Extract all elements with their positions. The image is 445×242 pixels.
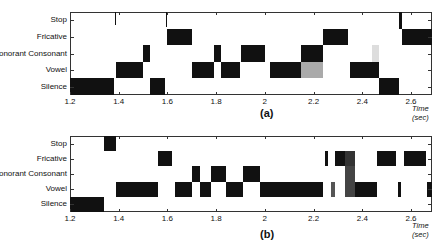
segment-sonorant-consonant [372, 45, 379, 62]
y-tick [428, 144, 432, 145]
y-tick [70, 144, 74, 145]
chart-caption: (b) [260, 228, 274, 240]
segment-fricative [323, 29, 347, 46]
x-tick [70, 209, 71, 212]
segment-sonorant-consonant [243, 166, 260, 181]
segment-sonorant-consonant [301, 45, 323, 62]
x-tick [362, 12, 363, 15]
x-tick [265, 136, 266, 139]
x-tick [167, 136, 168, 139]
x-tick-label: 2 [255, 214, 275, 223]
y-label-fricative: Fricative [37, 32, 67, 41]
segment-vowel [175, 182, 192, 197]
y-tick [428, 174, 432, 175]
x-tick [216, 92, 217, 95]
y-tick [428, 204, 432, 205]
x-tick-label: 2 [255, 97, 275, 106]
y-label-fricative: Fricative [37, 154, 67, 163]
y-label-vowel: Vowel [46, 184, 67, 193]
y-label-sonorant-consonant: Sonorant Consonant [0, 49, 67, 58]
x-tick [167, 92, 168, 95]
segment-vowel [350, 62, 379, 79]
x-tick [411, 92, 412, 95]
segment-sonorant-consonant [192, 166, 201, 181]
y-tick [70, 174, 74, 175]
x-tick-label: 1.8 [206, 214, 226, 223]
x-tick [314, 12, 315, 15]
y-tick [70, 189, 74, 190]
segment-silence [379, 78, 398, 95]
x-tick [70, 136, 71, 139]
segment-fricative [167, 29, 191, 46]
y-tick [428, 159, 432, 160]
x-tick [362, 92, 363, 95]
y-tick [428, 87, 432, 88]
x-tick-label: 1.2 [60, 214, 80, 223]
x-tick [119, 12, 120, 15]
y-tick [428, 20, 432, 21]
y-label-sonorant-consonant: Sonorant Consonant [0, 169, 67, 178]
x-tick-label: 2.4 [352, 214, 372, 223]
x-tick [119, 136, 120, 139]
segment-fricative [325, 151, 329, 166]
chart-caption: (a) [260, 107, 273, 119]
y-tick [70, 54, 74, 55]
segment-vowel [192, 62, 214, 79]
segment-sonorant-consonant [214, 45, 221, 62]
x-tick [167, 209, 168, 212]
x-tick [216, 136, 217, 139]
x-axis-title: Time (sec) [412, 221, 445, 239]
x-tick-label: 1.4 [109, 214, 129, 223]
y-tick [70, 87, 74, 88]
y-tick [70, 37, 74, 38]
x-tick-label: 2.4 [352, 97, 372, 106]
x-tick [216, 209, 217, 212]
x-tick [265, 92, 266, 95]
x-tick-label: 1.8 [206, 97, 226, 106]
x-tick-label: 2.2 [304, 214, 324, 223]
segment-fricative [377, 151, 396, 166]
x-tick [314, 209, 315, 212]
x-tick [70, 92, 71, 95]
x-tick [119, 92, 120, 95]
x-tick [362, 136, 363, 139]
x-tick [119, 209, 120, 212]
x-tick [314, 136, 315, 139]
segment-vowel [221, 62, 240, 79]
y-tick [428, 70, 432, 71]
segment-vowel [116, 182, 157, 197]
segment-vowel [226, 182, 243, 197]
segment-vowel [355, 182, 377, 197]
segment-vowel [116, 62, 143, 79]
y-tick [70, 70, 74, 71]
x-tick [314, 92, 315, 95]
segment-sonorant-consonant [143, 45, 150, 62]
x-tick-label: 1.6 [157, 97, 177, 106]
x-tick-label: 1.6 [157, 214, 177, 223]
y-tick [428, 189, 432, 190]
segment-fricative [345, 151, 355, 166]
segment-vowel [301, 62, 323, 79]
x-tick [411, 136, 412, 139]
x-tick [216, 12, 217, 15]
y-label-vowel: Vowel [46, 65, 67, 74]
segment-vowel [398, 182, 402, 197]
segment-silence [150, 78, 165, 95]
x-tick-label: 1.4 [109, 97, 129, 106]
x-tick [167, 12, 168, 15]
segment-sonorant-consonant [211, 166, 226, 181]
segment-fricative [404, 151, 426, 166]
segment-vowel [345, 182, 355, 197]
y-tick [428, 54, 432, 55]
segment-vowel [260, 182, 323, 197]
segment-vowel [200, 182, 211, 197]
x-tick [411, 12, 412, 15]
segment-silence [70, 78, 114, 95]
x-axis-title: Time (sec) [412, 104, 445, 122]
segment-sonorant-consonant [241, 45, 265, 62]
y-tick [70, 20, 74, 21]
segment-stop [104, 136, 116, 151]
segment-sonorant-consonant [345, 166, 355, 181]
segment-stop [399, 12, 403, 29]
y-label-silence: Silence [41, 82, 67, 91]
